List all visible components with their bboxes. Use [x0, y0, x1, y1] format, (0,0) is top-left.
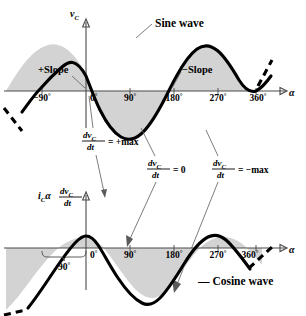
plus-slope-label: +Slope [38, 64, 69, 75]
dvc-numerator-1: dvC [83, 130, 97, 142]
sine-shaded-area [6, 44, 256, 139]
cosine-y-axis-label: iCα dvC dt [38, 186, 82, 208]
cosine-dash-left [4, 310, 26, 315]
eq-plus-max: = +max [108, 137, 139, 147]
dvc-numerator-2: dvC [148, 158, 162, 170]
sine-tick-label-180: 180° [166, 92, 183, 104]
brace-label-90: 90° [58, 261, 71, 273]
cosine-x-axis-label: α [289, 244, 295, 255]
dt-denominator-2: dt [152, 170, 160, 180]
minus-slope-label: −Slope [182, 64, 213, 75]
dvc-numerator-axis: dvC [60, 186, 74, 198]
sine-wave-label: Sine wave [155, 17, 204, 29]
sine-tick-label-360: 360° [250, 92, 267, 104]
leader-zero-up [141, 128, 155, 156]
sine-y-axis-label: vC [70, 8, 79, 21]
arrow-plus-max [101, 189, 107, 198]
sine-tick-label-neg90: −90° [33, 92, 51, 104]
cosine-tick-label-270: 270° [210, 249, 227, 261]
derivative-minus-max: dvC dt = −max [172, 130, 269, 293]
dvc-numerator-3: dvC [213, 158, 227, 170]
sine-x-axis-label: α [289, 87, 295, 98]
ic-label: iCα [38, 190, 51, 203]
cosine-wave-chart: iCα dvC dt α 90° 0° 90° 180° 270° 360° —… [4, 186, 295, 315]
dt-denominator-3: dt [217, 170, 225, 180]
leader-zero-down [129, 182, 156, 241]
eq-zero: = 0 [173, 165, 186, 175]
sine-dash-left [4, 108, 22, 131]
dt-denominator-1: dt [87, 142, 95, 152]
sine-wave-chart: vC α −90° 0° 90° 180° 270° 360° +Slope −… [4, 8, 295, 139]
arrow-zero [126, 235, 133, 247]
dt-denominator-axis: dt [64, 198, 72, 208]
leader-plus-max-down [96, 155, 104, 192]
cosine-tick-label-360: 360° [242, 249, 259, 261]
leader-minus-max-up [206, 130, 218, 156]
eq-minus-max: = −max [238, 165, 269, 175]
sine-fill [6, 44, 256, 139]
figure-svg: vC α −90° 0° 90° 180° 270° 360° +Slope −… [0, 0, 306, 316]
cosine-tick-label-0: 0° [90, 249, 98, 261]
sine-tick-label-270: 270° [210, 92, 227, 104]
waveform-figure: vC α −90° 0° 90° 180° 270° 360° +Slope −… [0, 0, 306, 316]
sine-wave-leader [136, 24, 152, 38]
cosine-wave-label: — Cosine wave [197, 275, 273, 287]
